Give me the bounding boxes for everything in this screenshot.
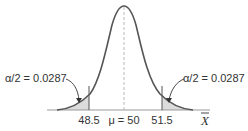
normal-distribution-figure: α/2 = 0.0287 α/2 = 0.0287 48.5 μ = 50 51…	[0, 0, 248, 131]
left-annotation-arrow	[66, 79, 79, 100]
right-tail-annotation: α/2 = 0.0287	[183, 72, 245, 84]
left-tail-shading	[57, 96, 89, 110]
right-annotation-arrow	[169, 79, 184, 100]
x-bar-axis-label: X	[200, 113, 210, 128]
upper-critical-label: 51.5	[151, 114, 172, 126]
left-tail-annotation: α/2 = 0.0287	[5, 72, 67, 84]
mean-label: μ = 50	[108, 114, 139, 126]
lower-critical-label: 48.5	[78, 114, 99, 126]
normal-curve	[57, 6, 193, 110]
